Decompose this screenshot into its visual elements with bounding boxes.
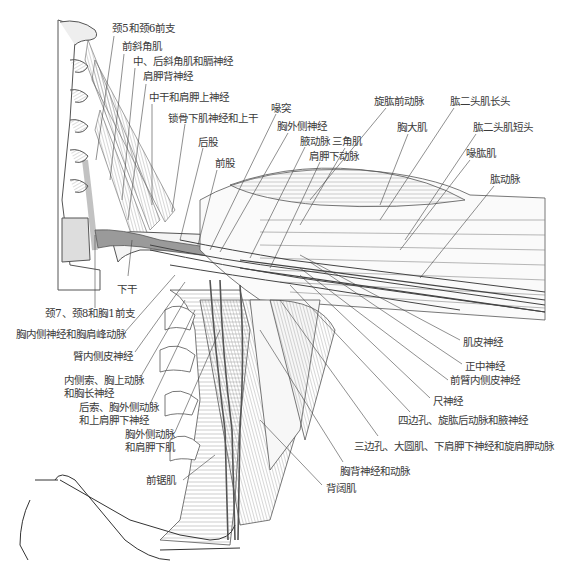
label-brachial-artery: 肱动脉 (490, 173, 520, 185)
label-c7-c8-t1-anterior-rami: 颈7、颈8和胸1前支 (45, 307, 135, 319)
anatomy-figure-brachial-plexus: 颈5和颈6前支 前斜角肌 中、后斜角肌和膈神经 肩胛背神经 中干和肩胛上神经 锁… (0, 0, 573, 572)
label-triangular-space: 三边孔、大圆肌、下肩胛下神经和旋肩胛动脉 (354, 440, 554, 452)
label-lateral-thoracic-line1: 胸外侧动脉 (125, 428, 175, 440)
label-subscapular-artery: 肩胛下动脉 (309, 150, 359, 162)
label-quadrangular-space: 四边孔、旋肱后动脉和腋神经 (398, 414, 528, 426)
label-dorsal-scapular-nerve: 肩胛背神经 (143, 70, 193, 82)
label-middle-trunk-suprascapular: 中干和肩胛上神经 (149, 91, 229, 103)
label-coracobrachialis: 喙肱肌 (466, 147, 496, 159)
label-latissimus-dorsi: 背阔肌 (326, 482, 356, 494)
label-medial-pectoral-thoracoacromial: 胸内侧神经和胸肩峰动脉 (16, 328, 126, 340)
label-anterior-division: 前股 (215, 157, 235, 169)
label-subclavius-nerve-upper-trunk: 锁骨下肌神经和上干 (168, 112, 258, 124)
label-biceps-long-head: 肱二头肌长头 (450, 95, 510, 107)
label-c5-c6-anterior-rami: 颈5和颈6前支 (112, 22, 175, 34)
label-anterior-scalene: 前斜角肌 (122, 40, 162, 52)
label-median-nerve: 正中神经 (465, 360, 505, 372)
label-coracoid-process: 喙突 (271, 102, 291, 114)
label-thoracodorsal-nerve-artery: 胸背神经和动脉 (340, 465, 410, 477)
label-posterior-division: 后股 (198, 136, 218, 148)
label-deltoid: 三角肌 (332, 135, 362, 147)
label-medial-cord-line1: 内侧索、胸上动脉 (64, 374, 144, 386)
label-lower-trunk: 下干 (117, 283, 137, 295)
label-lateral-thoracic-line2: 和肩胛下肌 (125, 441, 175, 453)
illustration-drawing (0, 0, 573, 572)
label-musculocutaneous-nerve: 肌皮神经 (463, 336, 503, 348)
label-middle-posterior-scalene-phrenic: 中、后斜角肌和膈神经 (133, 55, 233, 67)
label-axillary-artery: 腋动脉 (300, 135, 330, 147)
label-posterior-cord-line2: 和上肩胛下神经 (79, 414, 149, 426)
label-anterior-circumflex-humeral: 旋肱前动脉 (374, 95, 424, 107)
label-ulnar-nerve: 尺神经 (433, 395, 463, 407)
label-serratus-anterior: 前锯肌 (146, 474, 176, 486)
label-posterior-cord-line1: 后索、胸外侧动脉 (79, 401, 159, 413)
label-medial-antebrachial-cutaneous: 前臂内侧皮神经 (450, 374, 520, 386)
label-medial-cord-line2: 和胸长神经 (64, 387, 114, 399)
label-medial-brachial-cutaneous: 臂内侧皮神经 (73, 350, 133, 362)
label-lateral-pectoral-nerve: 胸外侧神经 (277, 120, 327, 132)
label-biceps-short-head: 肱二头肌短头 (473, 121, 533, 133)
label-pectoralis-major: 胸大肌 (397, 121, 427, 133)
